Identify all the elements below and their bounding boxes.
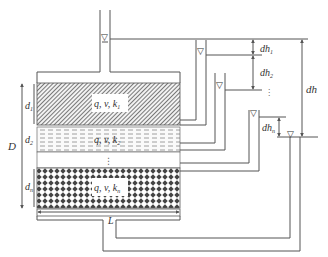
water-level-icon: ▽	[101, 32, 108, 42]
piezometer-2-level: ▽	[216, 80, 262, 90]
svg-text:▽: ▽	[197, 46, 204, 56]
svg-text:⋮: ⋮	[265, 88, 273, 97]
dh2-label: dh2	[260, 67, 273, 79]
d1-label: d1	[25, 100, 33, 112]
d2-label: d2	[25, 134, 33, 146]
dhn-label: dhn	[262, 122, 275, 134]
thickness-dimensions: D d1 d2 dn	[7, 84, 34, 208]
permeameter-diagram: ▽ q, v, k1 q, v, k2 ⋮ q, v, kn D d1 d2	[0, 0, 328, 257]
svg-text:L: L	[107, 215, 114, 226]
piezometer-1-level: ▽	[197, 46, 262, 56]
total-thickness-label: D	[7, 140, 16, 152]
outlet-level: ▽	[277, 129, 318, 139]
inlet-standpipe: ▽	[100, 10, 308, 72]
svg-text:▽: ▽	[216, 80, 223, 90]
dh-total-label: dh	[306, 83, 318, 95]
svg-text:q, v, kn: q, v, kn	[94, 182, 120, 194]
svg-text:q, v, k1: q, v, k1	[94, 98, 120, 110]
dh1-label: dh1	[260, 43, 273, 55]
layer-label-n: q, v, kn	[92, 178, 128, 196]
piezometer-n-level: ▽	[250, 108, 286, 118]
head-dimensions: dh1 dh2 ⋮ dhn dh	[253, 40, 318, 136]
layer-label-1: q, v, k1	[92, 94, 128, 112]
dn-label: dn	[25, 181, 33, 193]
piezometer-connections	[180, 40, 259, 171]
svg-text:q, v, k2: q, v, k2	[94, 134, 120, 146]
layer-ellipsis: ⋮	[104, 156, 113, 166]
svg-text:▽: ▽	[250, 108, 257, 118]
layer-label-2: q, v, k2	[94, 134, 120, 146]
